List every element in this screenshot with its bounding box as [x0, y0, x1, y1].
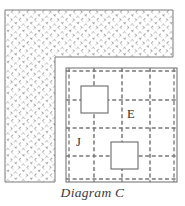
- label-E: E: [127, 108, 135, 121]
- figure-caption: Diagram C: [0, 185, 185, 201]
- diagram-figure: E J Diagram C: [0, 0, 185, 206]
- label-J: J: [76, 136, 81, 149]
- block-lower-middle: [111, 142, 138, 169]
- diagram-canvas: [0, 0, 185, 206]
- block-upper-left: [81, 86, 108, 113]
